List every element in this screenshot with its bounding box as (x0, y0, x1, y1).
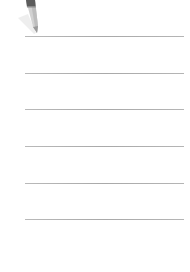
ruled-line (25, 73, 184, 74)
ruled-line (25, 36, 184, 37)
ruled-line (25, 146, 184, 147)
pencil-icon (14, 0, 44, 36)
lined-paper (0, 0, 190, 272)
ruled-line (25, 109, 184, 110)
ruled-line (25, 183, 184, 184)
ruled-line (25, 219, 184, 220)
